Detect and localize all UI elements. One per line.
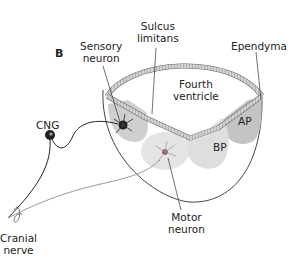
label-line: neuron: [168, 223, 205, 235]
label-cng: CNG: [36, 119, 59, 131]
label-motor-neuron: Motor neuron: [168, 211, 205, 235]
label-line: Sensory: [80, 40, 122, 52]
label-sensory-neuron: Sensory neuron: [80, 40, 122, 64]
panel-label: B: [55, 47, 63, 60]
label-ependyma: Ependyma: [231, 40, 287, 52]
label-line: nerve: [0, 244, 37, 256]
label-sulcus-limitans: Sulcus limitans: [137, 20, 179, 44]
label-bp: BP: [213, 141, 227, 153]
sensory-peripheral-fiber: [8, 140, 50, 218]
label-line: Cranial: [0, 232, 37, 244]
motor-axon: [8, 160, 160, 218]
label-line: Sulcus: [137, 20, 179, 32]
sensory-fiber: [52, 121, 118, 148]
label-line: limitans: [137, 32, 179, 44]
label-fourth-ventricle: Fourth ventricle: [173, 78, 219, 102]
label-cranial-nerve: Cranial nerve: [0, 232, 37, 256]
label-ap: AP: [238, 115, 252, 127]
leader-sulcus: [152, 48, 156, 114]
label-line: neuron: [80, 52, 122, 64]
label-line: ventricle: [173, 90, 219, 102]
label-line: Fourth: [173, 78, 219, 90]
label-line: Motor: [168, 211, 205, 223]
